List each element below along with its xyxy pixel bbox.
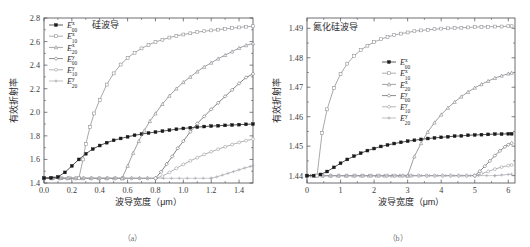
data-point: [388, 72, 391, 75]
x-tick-label: 4: [439, 186, 443, 195]
data-point: [147, 43, 150, 46]
data-point: [493, 133, 496, 136]
data-point: [98, 98, 101, 101]
data-point: [493, 25, 496, 28]
data-point: [245, 25, 248, 28]
panel-b-caption: （b）: [265, 232, 530, 243]
data-point: [238, 141, 241, 144]
data-point: [453, 135, 456, 138]
data-point: [231, 27, 234, 30]
chart-panel-a: 0.00.20.40.60.81.01.21.41.41.61.82.02.22…: [0, 0, 265, 247]
data-point: [230, 50, 233, 53]
data-point: [446, 135, 449, 138]
legend-label: Ey20: [399, 113, 410, 126]
data-point: [224, 124, 227, 127]
data-point: [43, 177, 46, 180]
data-point: [420, 29, 423, 32]
data-point: [460, 134, 463, 137]
y-tick-label: 2.2: [30, 85, 40, 94]
data-point: [154, 131, 157, 134]
y-tick-label: 2.0: [30, 108, 40, 117]
data-point: [306, 174, 309, 177]
data-point: [84, 152, 87, 155]
panel-a-caption: （a）: [0, 232, 265, 243]
x-axis-label: 波导宽度（μm）: [378, 196, 445, 207]
chart-title: 氮化硅波导: [313, 21, 358, 32]
data-point: [433, 28, 436, 31]
data-point: [93, 112, 96, 115]
data-point: [112, 72, 115, 75]
data-point: [312, 174, 315, 177]
data-point: [251, 42, 254, 45]
series-line: [211, 166, 253, 179]
data-point: [413, 139, 416, 142]
data-point: [460, 26, 463, 29]
data-point: [373, 41, 376, 44]
data-point: [353, 155, 356, 158]
data-point: [238, 123, 241, 126]
data-point: [196, 126, 199, 129]
x-tick-label: 0: [305, 186, 309, 195]
data-point: [224, 27, 227, 30]
data-point: [203, 125, 206, 128]
data-point: [453, 27, 456, 30]
data-point: [510, 25, 513, 28]
data-point: [126, 164, 129, 167]
data-point: [189, 159, 192, 162]
data-point: [440, 27, 443, 30]
data-point: [473, 26, 476, 29]
chart-panel-b: 01234561.441.451.461.471.481.49氮化硅波导波导宽度…: [265, 0, 530, 247]
data-point: [175, 128, 178, 131]
data-point: [366, 149, 369, 152]
data-point: [154, 41, 157, 44]
data-point: [339, 73, 342, 76]
data-point: [245, 139, 248, 142]
data-point: [467, 134, 470, 137]
y-tick-label: 2.6: [30, 38, 40, 47]
data-point: [210, 150, 213, 153]
data-point: [359, 49, 362, 52]
data-point: [426, 137, 429, 140]
data-point: [210, 29, 213, 32]
data-point: [252, 138, 255, 141]
data-point: [413, 30, 416, 33]
data-point: [105, 141, 108, 144]
x-tick-label: 0.0: [39, 186, 49, 195]
data-point: [133, 51, 136, 54]
baseline-segment: [42, 177, 213, 180]
data-point: [182, 163, 185, 166]
x-tick-label: 3: [406, 186, 410, 195]
data-point: [321, 131, 324, 134]
data-point: [203, 65, 206, 68]
data-point: [393, 34, 396, 37]
y-tick-label: 1.49: [289, 24, 303, 33]
chart-legend: Ex00Ex10Ex20Ey00Ey10Ey20: [382, 57, 410, 126]
data-point: [500, 133, 503, 136]
data-point: [507, 143, 511, 147]
series-line: [317, 26, 512, 175]
data-point: [487, 25, 490, 28]
data-point: [189, 32, 192, 35]
data-point: [326, 108, 329, 111]
data-point: [487, 133, 490, 136]
data-point: [406, 31, 409, 34]
data-point: [196, 70, 199, 73]
data-point: [388, 105, 391, 108]
data-point: [346, 62, 349, 65]
data-point: [210, 125, 213, 128]
data-point: [507, 25, 510, 28]
x-tick-label: 0.6: [122, 186, 132, 195]
data-point: [175, 167, 178, 170]
y-axis-label: 有效折射率: [8, 78, 19, 123]
data-point: [252, 25, 255, 28]
data-point: [326, 170, 329, 173]
data-point: [467, 26, 470, 29]
data-point: [55, 24, 58, 27]
data-point: [251, 72, 255, 76]
data-point: [332, 166, 335, 169]
data-point: [510, 71, 513, 74]
data-point: [55, 35, 58, 38]
x-tick-label: 1.4: [234, 186, 244, 195]
data-point: [77, 177, 80, 180]
data-point: [480, 25, 483, 28]
